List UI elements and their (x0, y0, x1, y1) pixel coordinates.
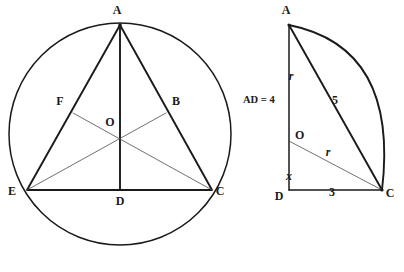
left-figure-group: A E C O D F B (8, 3, 231, 245)
label-f-left: F (56, 94, 63, 108)
label-c-right: C (386, 186, 395, 200)
label-d-right: D (275, 189, 284, 203)
label-r-upper: r (289, 69, 294, 83)
vertex-dot-a-right (287, 23, 290, 26)
label-o-left: O (105, 115, 114, 129)
vertex-dot-a-left (118, 23, 122, 27)
label-base-3: 3 (329, 185, 335, 199)
label-a-right: A (282, 3, 291, 17)
label-ad-measure: AD = 4 (243, 94, 275, 105)
label-x-segment: x (285, 169, 292, 183)
label-r-lower: r (326, 145, 331, 159)
geometry-figure-canvas: A E C O D F B A D C O AD = 4 r 5 x r 3 (0, 0, 404, 272)
label-c-left: C (216, 184, 225, 198)
label-a-left: A (113, 3, 122, 17)
label-e-left: E (8, 184, 16, 198)
label-b-left: B (172, 94, 180, 108)
vertex-dot-c-right (380, 188, 383, 191)
label-d-left: D (116, 194, 125, 208)
label-o-right: O (295, 128, 304, 142)
right-figure-group: A D C O AD = 4 r 5 x r 3 (243, 3, 394, 203)
label-hypotenuse-5: 5 (332, 93, 338, 107)
